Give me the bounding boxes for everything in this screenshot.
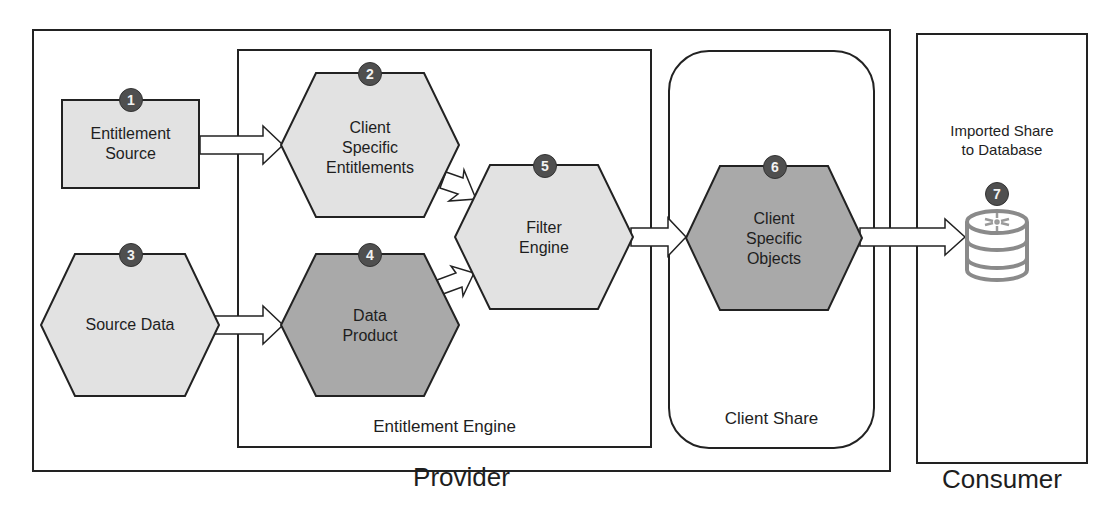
label-line: Entitlements xyxy=(281,158,459,178)
label-client-specific-entitlements: Client Specific Entitlements xyxy=(281,118,459,178)
arrow-6-to-7 xyxy=(860,219,965,255)
label-line: Engine xyxy=(455,238,633,258)
badge-6: 6 xyxy=(763,155,787,179)
label-line: Product xyxy=(281,326,459,346)
label-entitlement-engine: Entitlement Engine xyxy=(238,416,651,437)
label-line: Source xyxy=(62,144,199,164)
label-line: Specific xyxy=(686,229,862,249)
label-line: Specific xyxy=(281,138,459,158)
arrow-1-to-2 xyxy=(200,126,283,164)
badge-2: 2 xyxy=(358,62,382,86)
label-line: Objects xyxy=(686,249,862,269)
badge-1: 1 xyxy=(119,88,143,112)
label-line: Imported Share xyxy=(917,122,1087,141)
badge-7: 7 xyxy=(985,182,1009,206)
label-imported-share: Imported Share to Database xyxy=(917,122,1087,160)
label-line: Client xyxy=(281,118,459,138)
badge-3: 3 xyxy=(119,243,143,267)
label-provider: Provider xyxy=(33,461,890,494)
label-filter-engine: Filter Engine xyxy=(455,218,633,258)
label-line: Entitlement xyxy=(62,124,199,144)
arrow-5-to-6 xyxy=(631,218,686,256)
snowflake-database-icon xyxy=(967,211,1027,280)
label-consumer: Consumer xyxy=(917,463,1087,496)
label-entitlement-source: Entitlement Source xyxy=(62,124,199,164)
label-source-data: Source Data xyxy=(41,315,219,335)
diagram-canvas xyxy=(0,0,1115,529)
badge-5: 5 xyxy=(533,154,557,178)
badge-4: 4 xyxy=(358,243,382,267)
label-line: Source Data xyxy=(41,315,219,335)
label-line: Data xyxy=(281,306,459,326)
label-data-product: Data Product xyxy=(281,306,459,346)
label-client-specific-objects: Client Specific Objects xyxy=(686,209,862,269)
label-client-share: Client Share xyxy=(669,408,874,429)
arrow-3-to-4 xyxy=(215,306,283,344)
label-line: to Database xyxy=(917,141,1087,160)
label-line: Filter xyxy=(455,218,633,238)
label-line: Client xyxy=(686,209,862,229)
